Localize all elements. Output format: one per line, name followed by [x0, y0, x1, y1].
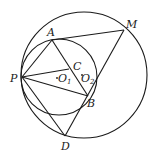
label-B: B [86, 97, 95, 110]
segment-AM [52, 30, 124, 40]
segment-MD [65, 30, 124, 136]
geometry-diagram: A M P C O1 O2 B D [0, 0, 155, 156]
label-O2: O2 [81, 72, 95, 86]
label-A: A [46, 26, 55, 39]
label-D: D [60, 140, 70, 153]
label-P: P [9, 72, 18, 85]
segment-PD [22, 77, 65, 136]
label-O1: O1 [58, 72, 72, 86]
label-M: M [125, 18, 138, 31]
